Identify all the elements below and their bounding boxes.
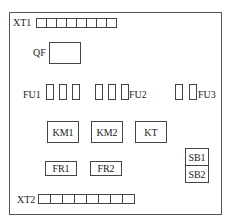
xt1-label: XT1 xyxy=(13,18,31,28)
km1-box: KM1 xyxy=(47,121,79,143)
xt2-label: XT2 xyxy=(17,195,35,205)
qf-breaker-box xyxy=(49,42,81,64)
sb1-button-box: SB1 xyxy=(185,148,209,166)
qf-label: QF xyxy=(33,48,46,58)
fu3-label: FU3 xyxy=(198,90,216,100)
fu2-fuse xyxy=(121,84,129,100)
fu3-fuse xyxy=(189,84,197,100)
fu1-fuse xyxy=(46,84,54,100)
fu2-fuse xyxy=(108,84,116,100)
fu3-fuse xyxy=(175,84,183,100)
fu2-label: FU2 xyxy=(129,90,147,100)
fu1-label: FU1 xyxy=(23,90,41,100)
terminal-cell xyxy=(106,18,117,28)
xt2-terminal-strip xyxy=(38,194,134,204)
terminal-cell xyxy=(122,194,135,204)
km2-box: KM2 xyxy=(91,121,123,143)
fu1-fuse xyxy=(72,84,80,100)
fu2-fuse xyxy=(95,84,103,100)
xt1-terminal-strip xyxy=(36,18,116,28)
fr1-box: FR1 xyxy=(45,161,77,176)
fr2-box: FR2 xyxy=(90,161,122,176)
kt-box: KT xyxy=(135,121,167,143)
sb2-button-box: SB2 xyxy=(185,165,209,183)
fu1-fuse xyxy=(59,84,67,100)
control-panel-outline xyxy=(9,12,222,215)
